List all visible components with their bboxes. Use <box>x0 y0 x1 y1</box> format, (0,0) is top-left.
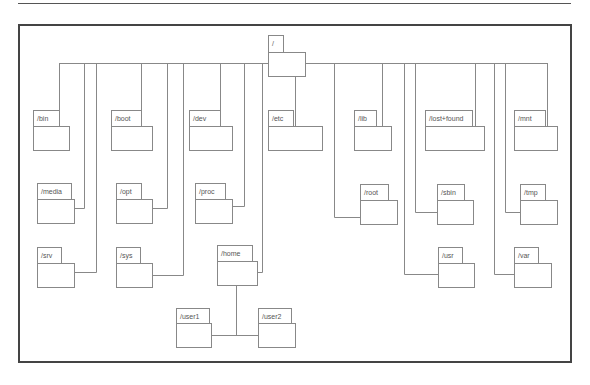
folder-tab: /lib <box>354 110 377 127</box>
folder-body <box>354 126 392 151</box>
folder-tab: /home <box>217 245 253 262</box>
folder-tab: /media <box>37 183 72 200</box>
folder-tab: /tmp <box>520 184 546 201</box>
folder-tab: /user1 <box>176 308 210 324</box>
folder-body <box>437 200 474 225</box>
folder-body <box>116 263 153 288</box>
folder-body <box>33 126 70 151</box>
folder-body <box>520 200 558 225</box>
folder-body <box>217 261 258 286</box>
folder-tab: /srv <box>37 247 62 264</box>
folder-tab: /sys <box>116 247 141 264</box>
folder-body <box>514 126 558 151</box>
folder-body <box>116 199 153 224</box>
folder-tab: /opt <box>116 183 142 200</box>
folder-tab: /etc <box>268 110 294 127</box>
folder-tab: / <box>268 35 284 53</box>
folder-tab: /sbin <box>437 184 465 201</box>
folder-body <box>268 52 306 77</box>
folder-tab: /root <box>360 184 389 201</box>
folder-tab: /user2 <box>258 308 292 324</box>
folder-body <box>189 126 233 151</box>
folder-body <box>425 126 485 151</box>
folder-body <box>195 199 233 224</box>
folder-body <box>111 126 153 151</box>
folder-body <box>37 199 75 224</box>
folder-tab: /dev <box>189 110 221 127</box>
folder-body <box>514 263 552 288</box>
folder-body <box>268 126 323 151</box>
folder-body <box>176 323 212 348</box>
folder-body <box>360 200 398 225</box>
folder-tab: /boot <box>111 110 142 127</box>
folder-tab: /var <box>514 247 539 264</box>
folder-tab: /bin <box>33 110 60 127</box>
folder-body <box>37 263 75 288</box>
folder-tab: /lost+found <box>425 110 473 127</box>
folder-tab: /proc <box>195 183 226 200</box>
folder-tab: /usr <box>438 247 463 264</box>
folder-body <box>438 263 475 288</box>
folder-tab: /mnt <box>514 110 546 127</box>
folder-body <box>258 323 296 348</box>
